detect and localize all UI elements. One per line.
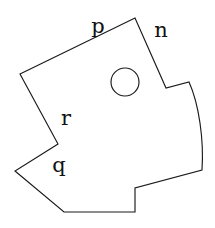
label-q: q bbox=[52, 155, 65, 176]
polygon-outline bbox=[15, 18, 202, 212]
figure-canvas: p n r q bbox=[0, 0, 215, 228]
polygon-figure bbox=[0, 0, 215, 228]
label-n: n bbox=[154, 20, 168, 41]
circle-hole bbox=[111, 68, 139, 96]
label-p: p bbox=[91, 16, 104, 37]
label-r: r bbox=[61, 108, 71, 129]
